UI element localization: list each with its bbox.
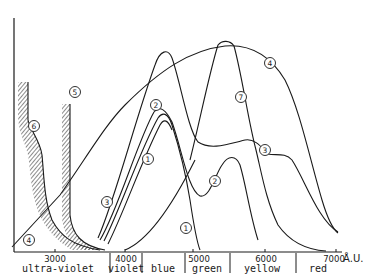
svg-text:3: 3 [263, 146, 268, 155]
curve-2 [100, 109, 258, 240]
svg-text:2: 2 [213, 177, 218, 186]
curve-label-3-right: 3 [260, 145, 271, 156]
band-yellow: yellow [244, 263, 281, 274]
curve-label-4-right: 4 [265, 58, 276, 69]
curve-3 [98, 52, 338, 238]
curve-label-7: 7 [236, 92, 247, 103]
curve-label-4-left: 4 [24, 235, 35, 246]
curve-label-1-right: 1 [181, 223, 192, 234]
svg-text:1: 1 [146, 155, 151, 164]
axis-unit: Å.U. [343, 252, 364, 264]
curve-label-6: 6 [29, 121, 40, 132]
band-green: green [192, 263, 222, 274]
curve-label-3-left: 3 [102, 197, 113, 208]
curve-6-hatched [18, 82, 100, 250]
band-blue: blue [151, 263, 175, 274]
curve-label-2-right: 2 [210, 176, 221, 187]
svg-text:1: 1 [184, 224, 189, 233]
svg-text:5: 5 [73, 88, 78, 97]
curve-label-2-left: 2 [151, 100, 162, 111]
curve-5-edge [70, 104, 105, 250]
spectral-sensitivity-diagram: 6 5 4 4 3 3 2 2 1 1 7 3000 4000 5000 600… [0, 0, 372, 280]
band-violet: violet [108, 263, 144, 274]
curve-4 [12, 46, 338, 247]
curve-label-5: 5 [70, 87, 81, 98]
svg-text:2: 2 [154, 101, 159, 110]
curve-5-hatched [62, 104, 105, 250]
svg-text:4: 4 [27, 236, 32, 245]
curve-label-1-left: 1 [143, 154, 154, 165]
band-ultra-violet: ultra-violet [22, 263, 94, 274]
svg-text:3: 3 [105, 198, 110, 207]
svg-text:7: 7 [239, 93, 244, 102]
svg-text:4: 4 [268, 59, 273, 68]
svg-text:6: 6 [32, 122, 37, 131]
band-red: red [309, 263, 327, 274]
